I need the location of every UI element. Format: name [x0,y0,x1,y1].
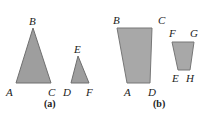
label-c-a: C [48,86,56,98]
caption-a: (a) [44,98,56,110]
similar-figures-diagram: B A C E D F (a) B C A D F G E H (b) [0,0,206,113]
label-a-a: A [5,86,13,98]
label-c-b: C [158,14,166,26]
label-d-a: D [62,86,71,98]
label-b-a: B [29,15,36,27]
label-f-b: F [168,27,176,39]
label-d-b: D [147,86,156,98]
label-h-b: H [185,72,195,84]
triangle-abc [16,28,51,83]
caption-b: (b) [153,98,165,110]
label-f-a: F [85,86,93,98]
label-a-b: A [123,86,131,98]
label-g-b: G [190,27,198,39]
label-b-b: B [113,14,120,26]
figure-b: B C A D F G E H (b) [113,14,198,110]
figure-a: B A C E D F (a) [5,15,93,110]
trapezoid-abcd [117,28,152,83]
label-e-b: E [171,72,179,84]
trapezoid-efgh [172,42,194,70]
label-e-a: E [73,43,81,55]
triangle-def [71,56,89,83]
